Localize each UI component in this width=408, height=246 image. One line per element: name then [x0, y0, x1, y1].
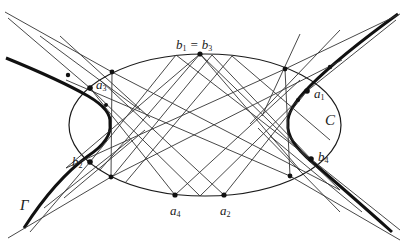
label-a2: a2: [220, 204, 231, 219]
point-a1: [304, 88, 310, 94]
hyperbola-dot-tl: [66, 73, 70, 77]
vertex-bottom-left: [109, 175, 114, 180]
label-a1: a1: [314, 87, 325, 102]
label-Gamma: Γ: [20, 198, 29, 213]
label-a4: a4: [170, 204, 181, 219]
point-a4: [172, 192, 177, 197]
hyperbola-right-branch: [288, 14, 398, 232]
marked-points: [66, 51, 332, 197]
point-b2: [87, 159, 93, 165]
vertex-bottom-right: [288, 174, 293, 179]
point-a2: [221, 192, 226, 197]
billiard-diagram: b1 = b3 a1 a2 a3 a4 b2 b4 C Γ: [0, 0, 408, 246]
label-C: C: [325, 113, 335, 128]
label-a3: a3: [96, 78, 107, 93]
hyperbola-dot-tr: [328, 65, 332, 69]
label-b1-eq-b3: b1 = b3: [176, 38, 212, 53]
hyperbola-dot-tl2: [104, 103, 108, 107]
point-a3: [87, 85, 93, 91]
vertex-top-left: [110, 70, 115, 75]
label-b2: b2: [72, 155, 83, 170]
point-b4: [308, 156, 314, 162]
vertex-top-right: [283, 67, 288, 72]
hyperbola-dot-tr2: [296, 98, 300, 102]
label-b4: b4: [318, 150, 329, 165]
